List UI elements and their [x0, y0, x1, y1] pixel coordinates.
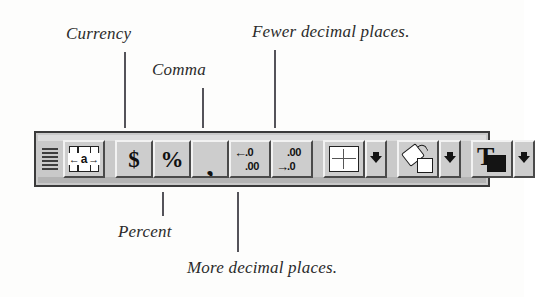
center-across-selection-icon: ← a → — [69, 146, 99, 172]
right-arrow-icon: → — [88, 154, 99, 165]
borders-dropdown-button[interactable] — [365, 140, 387, 178]
drag-grip-icon[interactable] — [41, 142, 59, 176]
borders-button[interactable] — [323, 140, 365, 178]
leader-line-more-decimal-places — [237, 192, 239, 252]
callout-label-comma: Comma — [152, 60, 206, 80]
decrease-decimal-bottom-text: .0 — [287, 161, 308, 172]
callout-label-fewer-decimal-places: Fewer decimal places. — [252, 22, 410, 42]
comma-icon: , — [206, 150, 214, 178]
increase-decimal-icon: ← .0 .00 — [234, 145, 266, 173]
comma-format-button[interactable]: , — [191, 140, 229, 178]
currency-format-button[interactable]: $ — [115, 140, 153, 178]
dropdown-arrow-icon — [444, 156, 456, 163]
dropdown-arrow-icon — [518, 156, 530, 163]
center-across-selection-letter: a — [81, 153, 88, 165]
increase-decimal-bottom-text: .00 — [245, 161, 266, 172]
toolbar-group-borders — [323, 140, 387, 178]
leader-line-currency — [124, 52, 126, 128]
increase-decimal-top-text: .0 — [245, 147, 266, 158]
percent-format-button[interactable]: % — [153, 140, 191, 178]
fill-color-button[interactable] — [397, 140, 439, 178]
borders-grid-icon — [329, 146, 359, 172]
font-color-dropdown-button[interactable] — [513, 140, 535, 178]
decrease-decimal-icon: .00 → .0 — [276, 145, 308, 173]
callout-label-percent: Percent — [118, 222, 172, 242]
toolbar-group-fill-color — [397, 140, 461, 178]
decrease-decimal-arrow-icon: → — [276, 160, 287, 173]
paint-bucket-icon — [403, 145, 433, 173]
decrease-decimal-top-text: .00 — [287, 147, 308, 158]
dropdown-arrow-icon — [370, 156, 382, 163]
center-across-selection-button[interactable]: ← a → — [63, 140, 105, 178]
leader-line-fewer-decimal-places — [274, 50, 276, 128]
toolbar-group-alignment: ← a → — [63, 140, 105, 178]
formatting-toolbar: ← a → $ % , — [34, 131, 490, 187]
decrease-decimal-button[interactable]: .00 → .0 — [271, 140, 313, 178]
font-color-icon: T — [477, 145, 507, 173]
toolbar-group-number-format: $ % , ← .0 .00 — [115, 140, 313, 178]
leader-line-comma — [202, 88, 204, 128]
dollar-sign-icon: $ — [128, 148, 140, 171]
leader-line-percent — [162, 192, 164, 216]
fill-color-dropdown-button[interactable] — [439, 140, 461, 178]
callout-label-currency: Currency — [66, 24, 131, 44]
font-color-swatch — [487, 155, 506, 172]
percent-sign-icon: % — [161, 148, 184, 171]
increase-decimal-arrow-icon: ← — [234, 146, 245, 159]
font-color-button[interactable]: T — [471, 140, 513, 178]
left-arrow-icon: ← — [69, 154, 80, 165]
toolbar-group-font-color: T — [471, 140, 535, 178]
callout-label-more-decimal-places: More decimal places. — [187, 258, 337, 278]
increase-decimal-button[interactable]: ← .0 .00 — [229, 140, 271, 178]
